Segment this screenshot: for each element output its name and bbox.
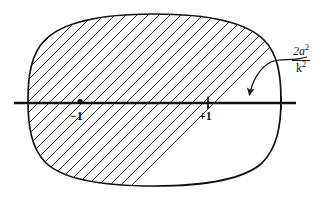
fraction-numerator: 2a2 bbox=[292, 45, 310, 60]
fraction-denominator-exponent: 2 bbox=[302, 60, 306, 69]
hatch-line-group bbox=[0, 0, 317, 199]
fraction-numerator-exponent: 2 bbox=[305, 43, 309, 52]
point-minus-one-label: −1 bbox=[70, 110, 82, 122]
point-plus-one-label: +1 bbox=[199, 110, 211, 122]
oval-outline bbox=[28, 14, 281, 186]
radius-annotation-label: 2a2 k2 bbox=[292, 45, 310, 76]
fraction-numerator-base: 2a bbox=[293, 44, 305, 58]
fraction-denominator: k2 bbox=[292, 61, 310, 76]
figure-canvas: −1 +1 2a2 k2 bbox=[0, 0, 336, 199]
figure-drawing bbox=[0, 0, 336, 199]
point-minus-one-dot bbox=[77, 99, 82, 104]
